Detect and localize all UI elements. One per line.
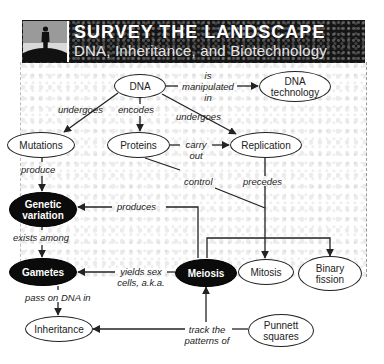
node-gametes: Gametes <box>9 258 77 286</box>
node-genetic-variation: Genetic variation <box>9 192 77 227</box>
node-dna: DNA <box>114 74 166 98</box>
node-inheritance: Inheritance <box>25 316 93 342</box>
node-punnett-squares: Punnett squares <box>248 314 314 347</box>
label-track-the-patterns-of: track the patterns of <box>180 324 234 346</box>
node-meiosis: Meiosis <box>175 259 237 287</box>
label-is-manipulated-in: is manipulated in <box>178 70 238 103</box>
node-proteins: Proteins <box>107 132 170 158</box>
label-precedes: precedes <box>243 176 282 187</box>
label-produces: produces <box>117 201 156 212</box>
label-undergoes-right: undergoes <box>176 111 221 122</box>
node-replication: Replication <box>230 132 302 158</box>
node-binary-fission: Binary fission <box>298 256 362 291</box>
label-produce: produce <box>21 164 55 175</box>
label-yields-sex-cells: yields sex cells, a.k.a. <box>114 266 168 288</box>
label-undergoes-left: undergoes <box>58 104 103 115</box>
node-dna-technology: DNA technology <box>259 71 331 102</box>
node-mitosis: Mitosis <box>238 259 294 285</box>
node-mutations: Mutations <box>7 132 75 158</box>
label-encodes: encodes <box>118 104 154 115</box>
label-carry-out: carry out <box>180 139 212 161</box>
label-control: control <box>184 176 213 187</box>
label-pass-on-dna-in: pass on DNA in <box>25 292 91 303</box>
label-exists-among: exists among <box>13 232 69 243</box>
